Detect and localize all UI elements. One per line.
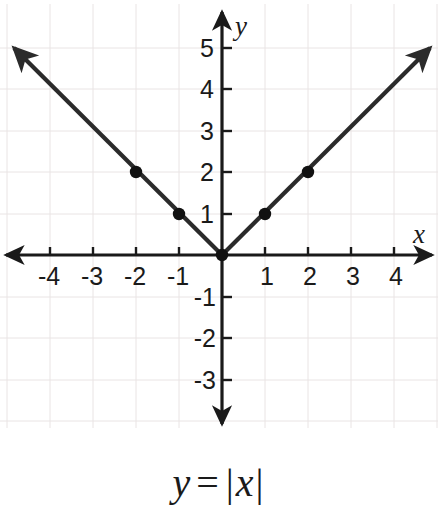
y-tick-label: -2 (194, 324, 216, 352)
x-tick-label: 3 (346, 262, 360, 290)
y-tick-label: 3 (200, 117, 214, 145)
y-tick-label: 2 (200, 158, 214, 186)
x-tick-label: -4 (38, 262, 60, 290)
equation-caption: y=|x| (0, 462, 438, 504)
y-tick-label: 5 (200, 34, 214, 62)
y-tick-label: 1 (200, 200, 214, 228)
data-point (130, 166, 142, 178)
data-point (216, 249, 228, 261)
y-tick-label: 4 (200, 75, 214, 103)
x-axis-label: x (412, 219, 425, 249)
y-tick-label: -1 (194, 283, 216, 311)
data-point (302, 166, 314, 178)
data-point (173, 208, 185, 220)
x-tick-label: -2 (124, 262, 146, 290)
absolute-value-bar-left: | (225, 460, 236, 505)
x-tick-label: 4 (389, 262, 403, 290)
x-tick-label: 1 (260, 262, 274, 290)
equation-lhs: y (172, 460, 191, 505)
equation-equals-sign: = (191, 460, 225, 505)
y-tick-label: -3 (194, 366, 216, 394)
absolute-value-bar-right: | (255, 460, 266, 505)
x-tick-label: -1 (167, 262, 189, 290)
x-tick-label: -3 (81, 262, 103, 290)
x-tick-label: 2 (303, 262, 317, 290)
data-point (259, 208, 271, 220)
y-axis-label: y (232, 11, 247, 41)
equation-argument: x (236, 460, 255, 505)
